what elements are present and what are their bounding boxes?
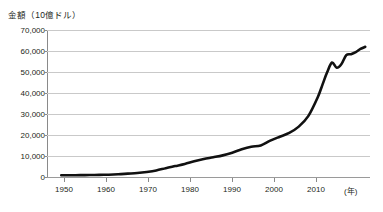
- chart-container: 金額（10億ドル） 70,000 60,000 50,000 40,000 30…: [0, 0, 383, 212]
- x-tick-label: 1950: [44, 185, 84, 194]
- x-axis-unit-label: (年): [344, 185, 357, 196]
- x-tick-mark: [232, 178, 233, 182]
- x-tick-label: 1970: [128, 185, 168, 194]
- x-tick-label: 2010: [296, 185, 336, 194]
- trade-value-line: [61, 47, 365, 176]
- x-tick-mark: [106, 178, 107, 182]
- x-tick-mark: [148, 178, 149, 182]
- x-tick-label: 1990: [212, 185, 252, 194]
- x-tick-mark: [190, 178, 191, 182]
- series-layer: [0, 0, 383, 212]
- x-tick-label: 2000: [254, 185, 294, 194]
- x-tick-mark: [316, 178, 317, 182]
- x-tick-label: 1960: [86, 185, 126, 194]
- x-tick-mark: [274, 178, 275, 182]
- x-tick-mark: [64, 178, 65, 182]
- x-tick-label: 1980: [170, 185, 210, 194]
